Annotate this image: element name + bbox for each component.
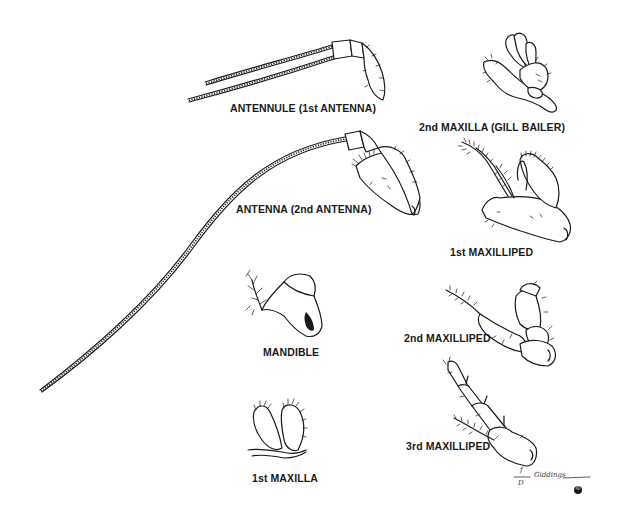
label-antennule: ANTENNULE (1st ANTENNA)	[230, 102, 376, 114]
label-second-maxilliped: 2nd MAXILLIPED	[404, 332, 491, 344]
first-maxilla-drawing	[248, 399, 307, 458]
label-second-maxilla: 2nd MAXILLA (GILL BAILER)	[419, 121, 565, 133]
label-first-maxilliped: 1st MAXILLIPED	[450, 246, 533, 258]
copyright-icon: ©	[575, 484, 581, 491]
signature-name: Giddings	[534, 471, 566, 479]
signature-initials-top: f	[520, 466, 523, 474]
label-third-maxilliped: 3rd MAXILLIPED	[406, 440, 490, 452]
label-antenna: ANTENNA (2nd ANTENNA)	[236, 203, 371, 215]
antenna-drawing	[40, 131, 420, 392]
label-first-maxilla: 1st MAXILLA	[252, 472, 318, 484]
second-maxilliped-drawing	[446, 281, 555, 366]
signature-initials-bottom: D	[518, 479, 524, 487]
first-maxilliped-drawing	[458, 138, 571, 242]
second-maxilla-drawing	[483, 33, 556, 112]
diagram-canvas: ANTENNULE (1st ANTENNA) 2nd MAXILLA (GIL…	[0, 0, 626, 522]
label-mandible: MANDIBLE	[263, 346, 319, 358]
mandible-drawing	[246, 270, 322, 337]
antennule-drawing	[188, 40, 385, 102]
